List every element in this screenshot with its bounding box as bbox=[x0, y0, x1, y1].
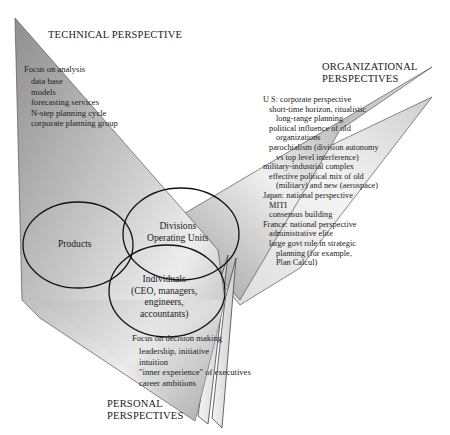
org-line: parochialism (division autonomy bbox=[263, 143, 379, 153]
technical-item: data base bbox=[31, 76, 118, 87]
org-line: Plan Calcul) bbox=[263, 258, 379, 268]
org-line: political influence of old bbox=[263, 124, 379, 134]
organizational-title-line2: PERSPECTIVES bbox=[322, 73, 399, 85]
org-line: organizations bbox=[263, 133, 379, 143]
individuals-label: Individuals (CEO, managers, engineers, a… bbox=[131, 273, 197, 319]
organizational-text: U S: corporate perspective short-time ho… bbox=[263, 95, 379, 268]
org-line: vs top level interference) bbox=[263, 153, 379, 163]
org-line: administrative elite bbox=[263, 229, 379, 239]
personal-item: career ambitions bbox=[139, 378, 251, 389]
technical-item: models bbox=[31, 87, 118, 98]
divisions-label-line: Operating Units bbox=[147, 232, 209, 244]
org-line: large govt role in strategic bbox=[263, 239, 379, 249]
org-line: France: national perspective bbox=[263, 220, 379, 230]
organizational-title-line1: ORGANIZATIONAL bbox=[322, 61, 418, 73]
personal-item: intuition bbox=[139, 357, 251, 368]
org-line: short-time horizon, ritualistic bbox=[263, 105, 379, 115]
org-line: Japan: national perspective bbox=[263, 191, 379, 201]
org-line: U S: corporate perspective bbox=[263, 95, 379, 105]
divisions-label-line: Divisions bbox=[147, 220, 209, 232]
org-line: (military) and new (aerospace) bbox=[263, 181, 379, 191]
products-label: Products bbox=[58, 238, 92, 250]
org-line: military-industrial complex bbox=[263, 162, 379, 172]
technical-item: N-step planning cycle bbox=[31, 108, 118, 119]
personal-items: leadership, initiative intuition "inner … bbox=[139, 346, 251, 388]
individuals-label-line: engineers, bbox=[131, 296, 197, 308]
divisions-label: Divisions Operating Units bbox=[147, 220, 209, 243]
org-line: long-range planning bbox=[263, 114, 379, 124]
technical-item: corporate planning group bbox=[31, 118, 118, 129]
org-line: consensus building bbox=[263, 210, 379, 220]
personal-title-line1: PERSONAL bbox=[107, 398, 163, 410]
individuals-label-line: Individuals bbox=[131, 273, 197, 285]
personal-item: leadership, initiative bbox=[139, 346, 251, 357]
technical-item: forecasting services bbox=[31, 97, 118, 108]
personal-title-line2: PERSPECTIVES bbox=[107, 410, 184, 422]
technical-heading: Focus on analysis bbox=[24, 64, 85, 75]
technical-items: data base models forecasting services N-… bbox=[31, 76, 118, 129]
technical-perspective-title: TECHNICAL PERSPECTIVE bbox=[48, 29, 182, 41]
org-line: effective political mix of old bbox=[263, 172, 379, 182]
personal-heading: Focus on decision making bbox=[132, 333, 222, 344]
personal-item: "inner experience" of executives bbox=[139, 367, 251, 378]
org-line: MITI bbox=[263, 201, 379, 211]
org-line: planning (for example, bbox=[263, 249, 379, 259]
individuals-label-line: (CEO, managers, bbox=[131, 285, 197, 297]
individuals-label-line: accountants) bbox=[131, 308, 197, 320]
